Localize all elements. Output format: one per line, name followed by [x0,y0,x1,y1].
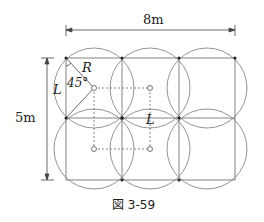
spacing-label: L [146,112,155,127]
figure-caption: 図 3-59 [112,195,155,212]
height-dimension-label: 5m [15,110,36,125]
side-label-left: L [53,82,62,97]
diagram-canvas [0,0,264,222]
width-dimension-label: 8m [143,12,164,27]
angle-label: 45° [67,76,88,90]
radius-label: R [82,60,92,75]
